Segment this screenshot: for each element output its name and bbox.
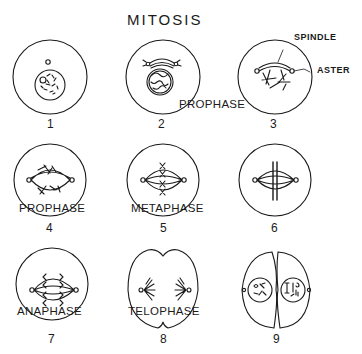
phase-label-stage-2: PROPHASE — [179, 99, 245, 111]
phase-label-stage-8: TELOPHASE — [128, 306, 200, 318]
stage-number-9: 9 — [273, 333, 280, 345]
stage-number-2: 2 — [158, 118, 165, 130]
diagram-title: MITOSIS — [127, 12, 202, 27]
stage-number-4: 4 — [46, 222, 53, 234]
stage-6-cell — [239, 144, 311, 216]
daughter-nucleus-left — [248, 278, 272, 302]
spindle-leader-line — [278, 50, 283, 62]
phase-label-stage-5: METAPHASE — [131, 203, 204, 215]
stage-3-cell — [238, 40, 312, 114]
mitosis-diagram: MITOSIS SPINDLE ASTER PROPHASE PROPHASE … — [0, 0, 362, 354]
phase-label-stage-7: ANAPHASE — [17, 306, 82, 318]
stage-1-cell — [13, 40, 87, 114]
stage-9-cell — [242, 252, 311, 328]
phase-label-stage-4: PROPHASE — [19, 203, 85, 215]
stage-number-3: 3 — [270, 118, 277, 130]
stage-number-1: 1 — [47, 118, 54, 130]
stage-number-6: 6 — [271, 222, 278, 234]
aster-leader-line — [294, 69, 310, 72]
diagram-drawing — [0, 0, 362, 354]
stage-number-7: 7 — [48, 333, 55, 345]
stage-number-5: 5 — [160, 222, 167, 234]
centriole-icon — [46, 60, 50, 64]
stage-number-8: 8 — [160, 333, 167, 345]
aster-label: ASTER — [317, 66, 350, 75]
spindle-label: SPINDLE — [294, 33, 337, 42]
